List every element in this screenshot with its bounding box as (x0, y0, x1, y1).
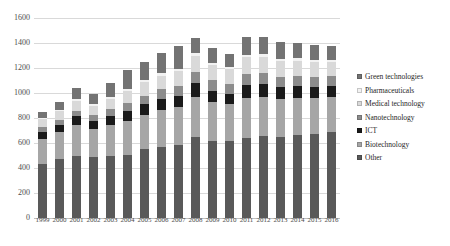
legend-swatch-icon (357, 74, 362, 79)
legend-item: Medical technology (357, 97, 450, 111)
bar-segment (72, 116, 81, 125)
bar-segment (38, 119, 47, 127)
bar-segment (123, 70, 132, 88)
bar-segment (310, 98, 319, 134)
bar-segment (157, 76, 166, 90)
x-axis-tick-label: 2005 (138, 216, 152, 225)
x-axis-tick-label: 2011 (240, 216, 254, 225)
x-axis-tick-label: 2013 (274, 216, 288, 225)
bar-segment (55, 120, 64, 125)
bar-segment (310, 77, 319, 87)
bar-segment (89, 106, 98, 115)
x-axis-tick-label: 2008 (189, 216, 203, 225)
legend-item-label: ICT (365, 126, 377, 135)
bar-segment (157, 73, 166, 75)
bar-column (72, 18, 81, 218)
bar-column (259, 18, 268, 218)
bar-segment (259, 97, 268, 136)
bar-segment (191, 38, 200, 53)
bar-segment (276, 59, 285, 61)
bar-column (225, 18, 234, 218)
bar-segment (327, 97, 336, 132)
bar-segment (106, 116, 115, 125)
bar-segment (106, 97, 115, 99)
bar-segment (174, 46, 183, 69)
bar-segment (38, 127, 47, 132)
bar-segment (123, 89, 132, 91)
bar-segment (225, 67, 234, 69)
legend-swatch-icon (357, 128, 362, 133)
bar-segment (191, 83, 200, 97)
x-axis-tick-label: 2014 (291, 216, 305, 225)
bar-segment (157, 89, 166, 98)
bar-segment (72, 111, 81, 117)
bar-column (276, 18, 285, 218)
bar-segment (293, 98, 302, 135)
bar-column (208, 18, 217, 218)
bar-segment (140, 80, 149, 82)
x-axis-tick-label: 1999 (36, 216, 50, 225)
bar-segment (259, 57, 268, 73)
bar-segment (191, 97, 200, 137)
legend-item-label: Green technologies (365, 72, 423, 81)
bar-segment (174, 96, 183, 108)
bar-segment (123, 121, 132, 155)
bar-segment (174, 107, 183, 145)
bar-column (157, 18, 166, 218)
bar-segment (157, 110, 166, 147)
bar-segment (276, 77, 285, 88)
bar-segment (242, 138, 251, 218)
bar-segment (157, 53, 166, 74)
bar-segment (259, 73, 268, 84)
legend-item: Other (357, 151, 450, 165)
x-axis-tick-label: 2007 (172, 216, 186, 225)
x-axis-tick-label: 2012 (257, 216, 271, 225)
bar-segment (327, 46, 336, 60)
x-axis-tick-label: 2002 (87, 216, 101, 225)
bar-segment (140, 96, 149, 105)
bar-segment (242, 85, 251, 98)
bar-segment (293, 61, 302, 77)
bar-segment (106, 125, 115, 156)
bar-segment (191, 72, 200, 83)
x-axis-tick-label: 2016 (325, 216, 339, 225)
bar-segment (123, 91, 132, 104)
legend-item: Pharmaceuticals (357, 84, 450, 98)
bar-column (38, 18, 47, 218)
bar-segment (225, 84, 234, 94)
bar-segment (140, 82, 149, 95)
bar-segment (208, 65, 217, 80)
chart-legend: Green technologiesPharmaceuticalsMedical… (357, 70, 450, 165)
bar-segment (55, 159, 64, 218)
bar-column (55, 18, 64, 218)
bar-column (106, 18, 115, 218)
bar-segment (208, 102, 217, 140)
bar-segment (327, 86, 336, 97)
bar-segment (242, 98, 251, 138)
bar-column (174, 18, 183, 218)
bar-segment (123, 103, 132, 111)
legend-item: Nanotechnology (357, 111, 450, 125)
legend-swatch-icon (357, 155, 362, 160)
bar-segment (208, 63, 217, 65)
bar-segment (72, 125, 81, 156)
bar-segment (225, 54, 234, 67)
plot-area: 02004006008001000120014001600 1999200020… (0, 0, 450, 246)
bar-segment (55, 111, 64, 120)
stacked-bar-chart: 02004006008001000120014001600 1999200020… (0, 0, 450, 246)
bar-segment (55, 125, 64, 133)
bar-segment (310, 87, 319, 98)
bar-segment (242, 55, 251, 58)
bar-segment (327, 132, 336, 218)
bar-segment (72, 156, 81, 219)
bar-segment (276, 137, 285, 218)
bar-segment (191, 56, 200, 72)
bar-segment (242, 57, 251, 73)
bar-segment (174, 69, 183, 71)
bar-segment (276, 61, 285, 77)
bar-segment (38, 139, 47, 164)
bar-segment (106, 156, 115, 219)
bar-segment (208, 91, 217, 103)
x-axis-tick-label: 2006 (155, 216, 169, 225)
bar-segment (174, 86, 183, 96)
